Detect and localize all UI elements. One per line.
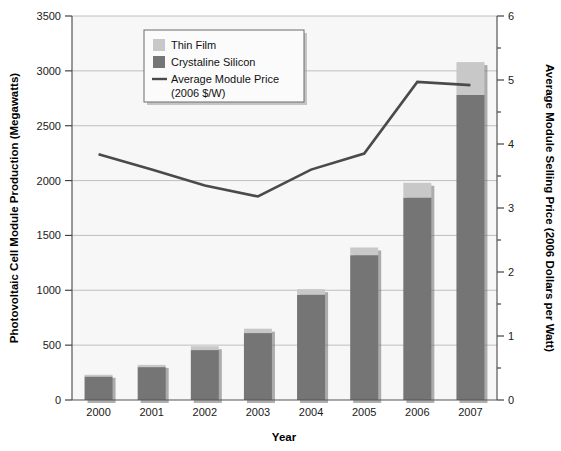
- chart-container: 0500100015002000250030003500 0123456 200…: [0, 0, 561, 451]
- y2-tick-label-5: 5: [508, 74, 514, 86]
- legend-label-average-module-price: Average Module Price: [171, 73, 279, 85]
- y2-tick-label-1: 1: [508, 330, 514, 342]
- y-tick-label-1500: 1500: [37, 229, 61, 241]
- bar-thin-film-2004: [297, 289, 325, 294]
- bar-crystaline-silicon-2006: [403, 198, 431, 400]
- bar-crystaline-silicon-2005: [350, 255, 378, 400]
- bar-crystaline-silicon-2000: [85, 376, 113, 400]
- y2-tick-label-2: 2: [508, 266, 514, 278]
- y2-tick-label-4: 4: [508, 138, 514, 150]
- x-tick-label-2005: 2005: [352, 406, 376, 418]
- x-axis-title: Year: [272, 431, 297, 443]
- bar-crystaline-silicon-2004: [297, 295, 325, 400]
- bar-crystaline-silicon-2003: [244, 333, 272, 400]
- y-tick-label-500: 500: [43, 339, 61, 351]
- bar-thin-film-2007: [456, 62, 484, 95]
- bar-thin-film-2003: [244, 329, 272, 333]
- legend-swatch-crystaline-silicon: [153, 56, 165, 68]
- y-tick-label-3500: 3500: [37, 10, 61, 22]
- bar-thin-film-2005: [350, 247, 378, 255]
- bar-thin-film-2006: [403, 183, 431, 198]
- bar-crystaline-silicon-2001: [138, 367, 166, 400]
- legend-label-thin-film: Thin Film: [171, 39, 216, 51]
- legend-label-crystaline-silicon: Crystaline Silicon: [171, 56, 255, 68]
- y2-tick-label-6: 6: [508, 10, 514, 22]
- chart-legend: Thin Film Crystaline Silicon Average Mod…: [144, 30, 307, 105]
- y-tick-label-0: 0: [55, 394, 61, 406]
- bar-thin-film-2001: [138, 365, 166, 367]
- x-tick-label-2003: 2003: [246, 406, 270, 418]
- legend-swatch-thin-film: [153, 39, 165, 51]
- photovoltaic-production-chart: 0500100015002000250030003500 0123456 200…: [0, 0, 561, 451]
- y-tick-label-3000: 3000: [37, 65, 61, 77]
- x-tick-label-2007: 2007: [458, 406, 482, 418]
- y-tick-label-1000: 1000: [37, 284, 61, 296]
- y2-tick-label-3: 3: [508, 202, 514, 214]
- y2-tick-label-0: 0: [508, 394, 514, 406]
- y-tick-label-2000: 2000: [37, 175, 61, 187]
- x-tick-label-2002: 2002: [193, 406, 217, 418]
- y-axis-title: Photovoltaic Cell Module Production (Meg…: [8, 73, 20, 343]
- legend-label-price-units: (2006 $/W): [171, 87, 225, 99]
- bar-crystaline-silicon-2007: [456, 95, 484, 400]
- y-tick-label-2500: 2500: [37, 120, 61, 132]
- x-tick-label-2000: 2000: [86, 406, 110, 418]
- bar-thin-film-2000: [85, 375, 113, 377]
- x-tick-label-2006: 2006: [405, 406, 429, 418]
- x-tick-label-2004: 2004: [299, 406, 323, 418]
- x-tick-label-2001: 2001: [139, 406, 163, 418]
- bar-crystaline-silicon-2002: [191, 350, 219, 400]
- y2-axis-title: Average Module Selling Price (2006 Dolla…: [544, 64, 556, 352]
- bar-thin-film-2002: [191, 346, 219, 350]
